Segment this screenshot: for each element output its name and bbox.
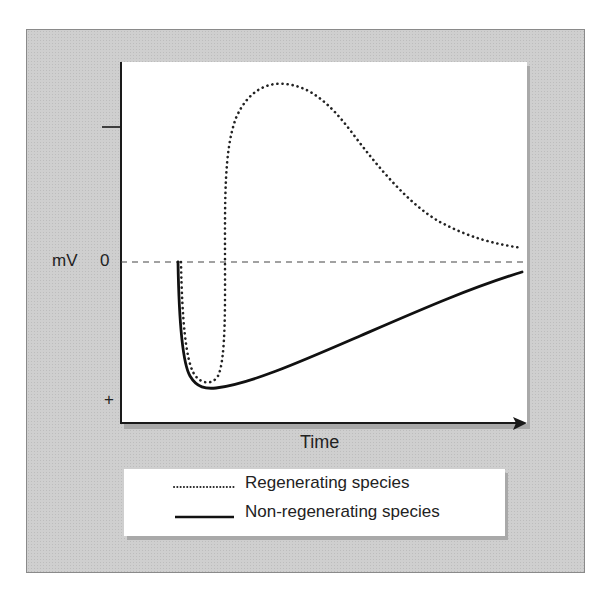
- legend-item-non-regenerating: Non-regenerating species: [124, 504, 505, 534]
- series-regenerating: [181, 84, 522, 383]
- legend-item-regenerating: Regenerating species: [124, 475, 505, 505]
- legend-label: Regenerating species: [245, 473, 409, 493]
- x-axis-label: Time: [300, 432, 339, 453]
- y-axis-label: mV: [52, 251, 78, 271]
- dotted-line-icon: [172, 483, 236, 491]
- series-non-regenerating: [178, 262, 522, 388]
- legend: Regenerating species Non-regenerating sp…: [124, 469, 505, 536]
- y-tick-plus-label: +: [104, 390, 114, 410]
- y-tick-zero-label: 0: [100, 251, 109, 271]
- solid-line-icon: [174, 513, 236, 521]
- legend-label: Non-regenerating species: [245, 502, 440, 522]
